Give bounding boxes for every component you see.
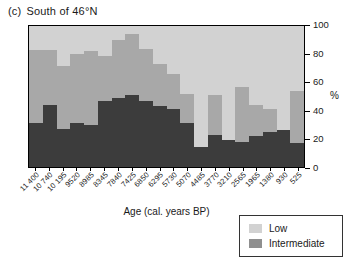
bar-segment <box>43 105 57 167</box>
bar-segment <box>277 130 291 167</box>
bar-column <box>263 26 277 167</box>
bar-segment <box>208 95 222 134</box>
legend-label: Low <box>269 224 287 234</box>
y-axis-tick-label: 40 <box>313 106 324 116</box>
bar-segment <box>29 50 43 123</box>
bar-segment <box>125 95 139 167</box>
bar-column <box>98 26 112 167</box>
bar-column <box>43 26 57 167</box>
y-axis: 020406080100 <box>305 25 347 168</box>
bar-segment <box>139 49 153 101</box>
bar-column <box>153 26 167 167</box>
bar-segment <box>167 26 181 74</box>
x-axis-tick-labels: 11 40010 74010 1959520898583457840742568… <box>28 170 305 204</box>
bar-column <box>290 26 304 167</box>
bar-segment <box>84 26 98 51</box>
legend-item[interactable]: Low <box>249 221 342 236</box>
bar-segment <box>139 26 153 49</box>
bar-segment <box>263 109 277 132</box>
bar-segment <box>167 74 181 109</box>
stacked-bar-series <box>29 26 304 167</box>
y-axis-tick <box>305 139 310 140</box>
panel-tag: (c) <box>8 5 21 17</box>
x-axis-tick-label: 930 <box>275 171 290 186</box>
bar-segment <box>180 94 194 124</box>
y-axis-tick-label: 20 <box>313 135 324 145</box>
x-axis-label-cell: 1380 <box>263 170 277 204</box>
y-axis-tick <box>305 111 310 112</box>
bar-column <box>84 26 98 167</box>
bar-segment <box>139 101 153 167</box>
bar-segment <box>249 105 263 136</box>
bar-segment <box>43 26 57 50</box>
bar-column <box>235 26 249 167</box>
bar-segment <box>84 51 98 124</box>
bar-segment <box>57 129 71 167</box>
x-axis-label-cell: 7840 <box>111 170 125 204</box>
bar-segment <box>112 26 126 40</box>
bar-column <box>112 26 126 167</box>
bar-segment <box>290 91 304 143</box>
legend-swatch <box>249 239 262 248</box>
bar-segment <box>180 26 194 94</box>
bar-segment <box>290 26 304 91</box>
bar-segment <box>153 26 167 64</box>
legend-label: Intermediate <box>269 239 325 249</box>
bar-segment <box>98 101 112 167</box>
bar-column <box>277 26 291 167</box>
bar-segment <box>263 132 277 167</box>
x-axis-tick-label: 525 <box>289 171 304 186</box>
bar-segment <box>57 26 71 65</box>
bar-segment <box>112 40 126 98</box>
bar-segment <box>194 26 208 147</box>
bar-segment <box>57 66 71 129</box>
bar-column <box>70 26 84 167</box>
bar-segment <box>98 26 112 56</box>
y-axis-tick-label: 80 <box>313 49 324 59</box>
bar-segment <box>98 56 112 101</box>
bar-segment <box>70 26 84 54</box>
bar-segment <box>112 98 126 167</box>
bar-column <box>125 26 139 167</box>
bar-segment <box>235 87 249 142</box>
bar-column <box>29 26 43 167</box>
bar-column <box>208 26 222 167</box>
bar-segment <box>125 26 139 34</box>
bar-segment <box>194 147 208 167</box>
bar-segment <box>153 64 167 106</box>
bar-column <box>57 26 71 167</box>
legend-swatch <box>249 224 262 233</box>
bar-column <box>180 26 194 167</box>
bar-segment <box>235 142 249 167</box>
bar-segment <box>29 26 43 50</box>
bar-segment <box>235 26 249 87</box>
x-axis-label-cell: 525 <box>291 170 305 204</box>
bar-segment <box>167 109 181 167</box>
bar-segment <box>153 106 167 167</box>
bar-segment <box>70 54 84 123</box>
bar-segment <box>29 123 43 167</box>
bar-segment <box>263 26 277 109</box>
bar-column <box>249 26 263 167</box>
chart-legend: LowIntermediate <box>239 215 343 257</box>
y-axis-tick-label: 0 <box>313 163 318 173</box>
x-axis-label-cell: 930 <box>277 170 291 204</box>
y-axis-tick <box>305 82 310 83</box>
bar-column <box>194 26 208 167</box>
bar-segment <box>222 26 236 140</box>
bar-segment <box>208 26 222 95</box>
bar-segment <box>277 26 291 130</box>
panel-title-text: South of 46°N <box>26 5 97 17</box>
bar-segment <box>125 34 139 95</box>
bar-segment <box>249 136 263 167</box>
bar-column <box>167 26 181 167</box>
bar-segment <box>290 143 304 167</box>
bar-segment <box>180 123 194 167</box>
legend-item[interactable]: Intermediate <box>249 236 342 251</box>
bar-segment <box>249 26 263 105</box>
chart-plot-area <box>28 25 305 168</box>
bar-segment <box>222 140 236 167</box>
bar-segment <box>70 123 84 167</box>
y-axis-tick <box>305 168 310 169</box>
bar-segment <box>84 125 98 167</box>
